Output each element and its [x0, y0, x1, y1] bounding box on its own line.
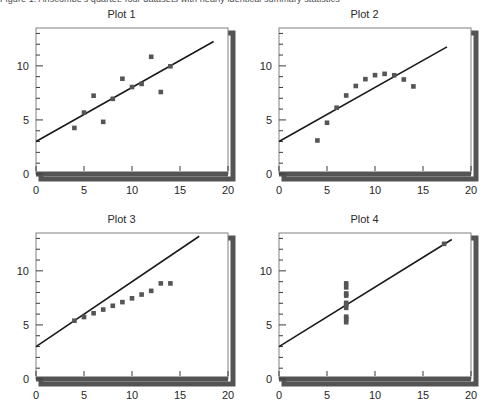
- data-point: [344, 302, 349, 307]
- data-point: [149, 289, 154, 294]
- data-point: [373, 73, 378, 78]
- data-point: [344, 281, 349, 286]
- data-point: [91, 93, 96, 98]
- plot-grid: Plot 1 051015200510 Plot 2 051015200510 …: [0, 6, 486, 417]
- data-point: [139, 82, 144, 87]
- y-tick-label: 10: [260, 60, 272, 72]
- data-point: [344, 291, 349, 296]
- y-tick-label: 0: [266, 373, 272, 385]
- plot-panel-4: Plot 4 051015200510: [243, 211, 486, 416]
- data-point: [382, 72, 387, 77]
- x-tick-label: 15: [174, 389, 186, 401]
- data-point: [334, 105, 339, 110]
- y-tick-label: 10: [260, 265, 272, 277]
- x-tick-label: 15: [174, 184, 186, 196]
- plot-frame: [36, 233, 228, 379]
- data-point: [82, 315, 87, 320]
- data-point: [111, 97, 116, 102]
- x-tick-label: 0: [276, 389, 282, 401]
- x-tick-label: 5: [81, 184, 87, 196]
- plot-canvas: 051015200510: [243, 211, 486, 416]
- x-tick-label: 20: [222, 184, 234, 196]
- data-point: [130, 85, 135, 90]
- data-point: [402, 77, 407, 82]
- plot-frame: [279, 233, 471, 379]
- x-tick-label: 20: [465, 184, 477, 196]
- data-point: [363, 77, 368, 82]
- x-tick-label: 15: [417, 184, 429, 196]
- data-point: [72, 318, 77, 323]
- data-point: [101, 120, 106, 125]
- data-point: [139, 292, 144, 297]
- x-tick-label: 5: [324, 389, 330, 401]
- x-tick-label: 20: [465, 389, 477, 401]
- y-tick-label: 0: [266, 168, 272, 180]
- data-point: [159, 90, 164, 95]
- plot-panel-3: Plot 3 051015200510: [0, 211, 243, 416]
- x-tick-label: 15: [417, 389, 429, 401]
- data-point: [168, 64, 173, 69]
- data-point: [392, 73, 397, 78]
- x-tick-label: 5: [81, 389, 87, 401]
- data-point: [325, 120, 330, 125]
- data-point: [315, 138, 320, 143]
- data-point: [149, 54, 154, 59]
- x-tick-label: 0: [33, 389, 39, 401]
- data-point: [442, 242, 447, 247]
- data-point: [82, 110, 87, 115]
- data-point: [120, 76, 125, 81]
- y-tick-label: 10: [17, 60, 29, 72]
- plot-canvas: 051015200510: [0, 211, 243, 416]
- data-point: [101, 307, 106, 312]
- plot-canvas: 051015200510: [0, 6, 243, 211]
- y-tick-label: 5: [23, 114, 29, 126]
- data-point: [168, 281, 173, 286]
- x-tick-label: 10: [369, 389, 381, 401]
- data-point: [344, 285, 349, 290]
- plot-panel-2: Plot 2 051015200510: [243, 6, 486, 211]
- x-tick-label: 5: [324, 184, 330, 196]
- y-tick-label: 5: [266, 114, 272, 126]
- y-tick-label: 10: [17, 265, 29, 277]
- data-point: [411, 84, 416, 89]
- x-tick-label: 0: [276, 184, 282, 196]
- x-tick-label: 10: [126, 184, 138, 196]
- data-point: [130, 296, 135, 301]
- y-tick-label: 0: [23, 373, 29, 385]
- x-tick-label: 0: [33, 184, 39, 196]
- data-point: [72, 126, 77, 131]
- data-point: [120, 300, 125, 305]
- data-point: [344, 93, 349, 98]
- x-tick-label: 10: [369, 184, 381, 196]
- data-point: [159, 281, 164, 286]
- x-tick-label: 20: [222, 389, 234, 401]
- figure-caption: Figure 1. Anscombe's quartet: four datas…: [0, 0, 486, 4]
- x-tick-label: 10: [126, 389, 138, 401]
- data-point: [354, 84, 359, 89]
- data-point: [344, 317, 349, 322]
- data-point: [111, 303, 116, 308]
- plot-canvas: 051015200510: [243, 6, 486, 211]
- anscombe-quartet-figure: Figure 1. Anscombe's quartet: four datas…: [0, 0, 486, 417]
- y-tick-label: 5: [266, 319, 272, 331]
- y-tick-label: 0: [23, 168, 29, 180]
- plot-panel-1: Plot 1 051015200510: [0, 6, 243, 211]
- y-tick-label: 5: [23, 319, 29, 331]
- data-point: [91, 311, 96, 316]
